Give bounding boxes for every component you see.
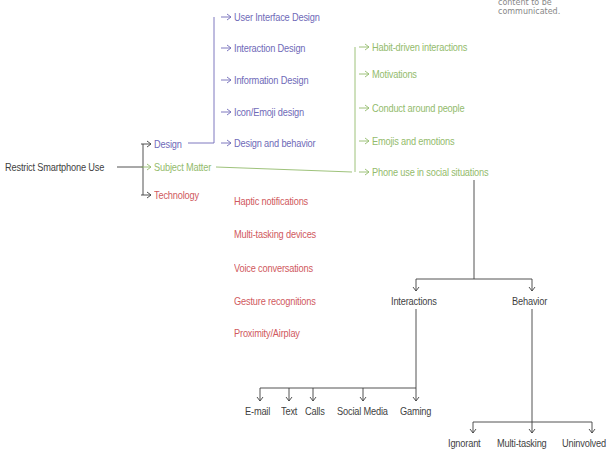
arrow-down-icon [313,397,316,401]
subject-connector [216,167,352,172]
behavior-leaf: Uninvolved [562,437,606,449]
arrow-right-icon [227,301,231,304]
arrow-right-icon [227,17,231,20]
technology-item: Gesture recognitions [234,295,316,307]
mind-map: content to be communicated. Restrict Sma… [0,0,614,453]
arrow-down-icon [363,397,366,401]
design-item: User Interface Design [234,11,320,23]
subject-item: Conduct around people [372,102,464,114]
arrow-down-icon [260,397,263,401]
subject-item: Emojis and emotions [372,135,454,147]
design-item: Icon/Emoji design [234,106,304,118]
interaction-leaf: Text [281,405,297,417]
design-item: Interaction Design [234,42,305,54]
arrow-down-icon [473,429,476,433]
technology-item: Multi-tasking devices [234,228,316,240]
interaction-leaf: E-mail [245,405,270,417]
technology-item: Proximity/Airplay [234,327,300,339]
arrow-down-icon [416,287,419,291]
arrow-right-icon [227,198,231,201]
interaction-leaf: Social Media [337,405,388,417]
behavior-leaf: Multi-tasking [497,437,547,449]
arrow-right-icon [227,333,231,336]
design-item: Information Design [234,74,308,86]
subject-item: Motivations [372,68,417,80]
arrow-down-icon [416,397,419,401]
subject-item: Phone use in social situations [372,166,488,178]
arrow-right-icon [227,234,231,237]
arrow-right-icon [227,201,231,204]
behavior-node: Behavior [512,295,547,307]
arrow-down-icon [289,397,292,401]
root-node: Restrict Smartphone Use [5,161,104,173]
branch-subject-matter: Subject Matter [154,161,211,173]
arrow-right-icon [227,298,231,301]
arrow-right-icon [227,268,231,271]
technology-item: Haptic notifications [234,195,308,207]
technology-item: Voice conversations [234,262,313,274]
arrow-right-icon [227,330,231,333]
design-item: Design and behavior [234,137,315,149]
connector-lines [0,0,614,453]
behavior-leaf: Ignorant [448,437,481,449]
arrow-right-icon [227,265,231,268]
branch-technology: Technology [154,189,199,201]
branch-design: Design [154,138,182,150]
interaction-leaf: Gaming [400,405,431,417]
interactions-node: Interactions [391,295,437,307]
subject-item: Habit-driven interactions [372,41,467,53]
arrow-right-icon [227,231,231,234]
interaction-leaf: Calls [305,405,325,417]
